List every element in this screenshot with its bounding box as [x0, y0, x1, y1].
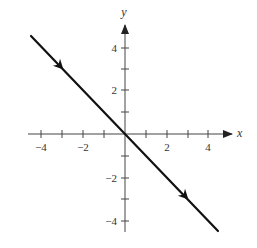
x-tick-label: −2	[77, 141, 89, 153]
y-tick-label: −4	[105, 215, 117, 227]
y-tick-label: 2	[112, 84, 118, 96]
y-tick-label: 4	[112, 42, 118, 54]
y-axis-label: y	[120, 5, 127, 19]
x-tick-label: 4	[205, 141, 211, 153]
x-axis-label: x	[236, 126, 243, 140]
x-tick-label: −4	[35, 141, 47, 153]
phase-line-plot: −4 −2 2 4 x 4 2 −2 −4 y	[0, 0, 257, 248]
x-axis: −4 −2 2 4 x	[28, 126, 243, 153]
y-tick-label: −2	[105, 172, 117, 184]
x-tick-label: 2	[164, 141, 170, 153]
